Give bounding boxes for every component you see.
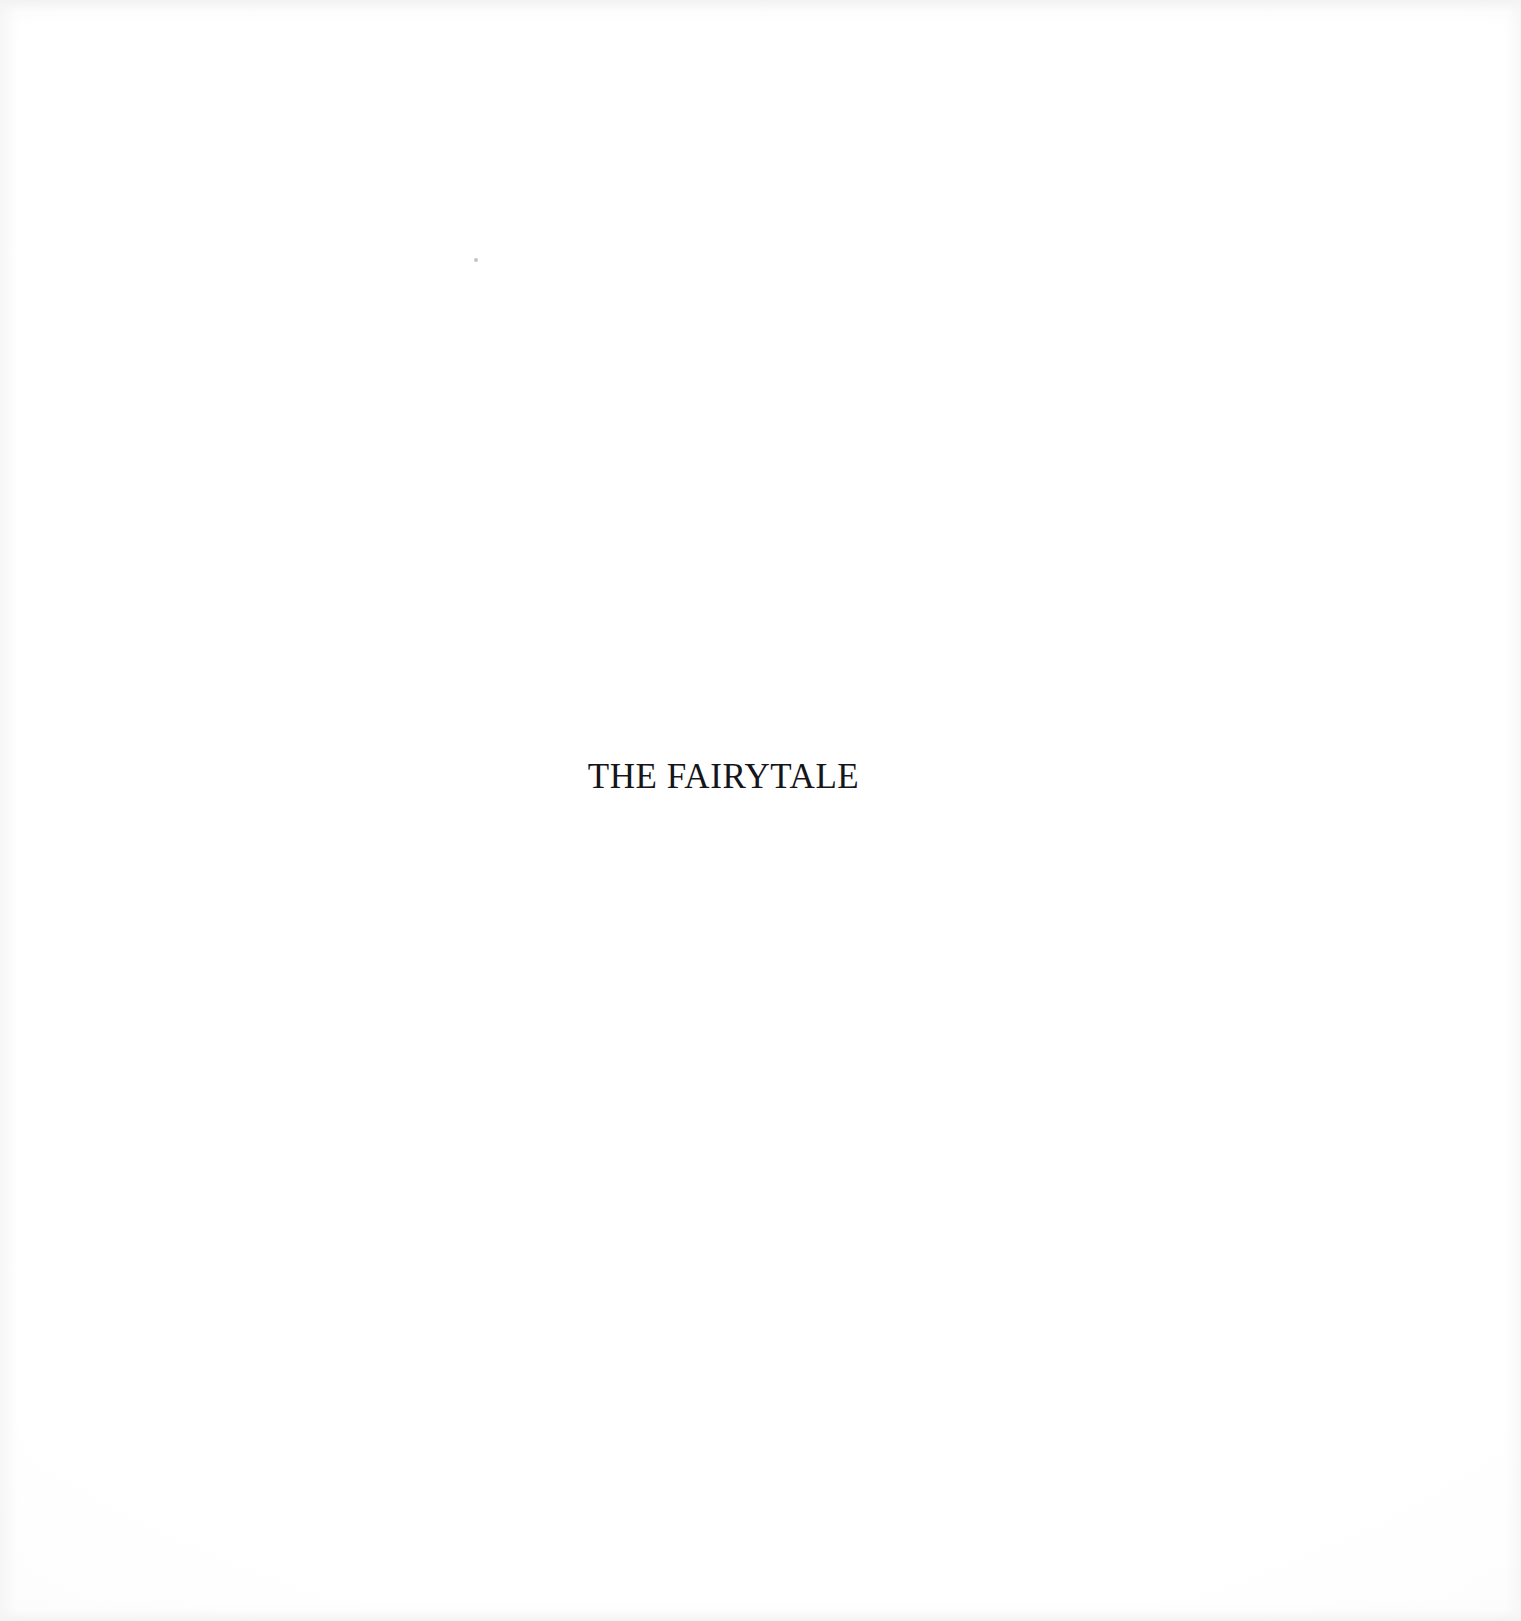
scan-edge-right [1505, 0, 1521, 1621]
scan-edge-left [0, 0, 18, 1621]
scan-paper-tone [0, 0, 1521, 1621]
scan-edge-bottom [0, 1599, 1521, 1621]
scanned-page: THE FAIRYTALE [0, 0, 1521, 1621]
scan-speck [474, 258, 478, 262]
part-title-block: THE FAIRYTALE [0, 758, 1521, 796]
scan-edge-top [0, 0, 1521, 26]
page-title: THE FAIRYTALE [588, 758, 860, 796]
